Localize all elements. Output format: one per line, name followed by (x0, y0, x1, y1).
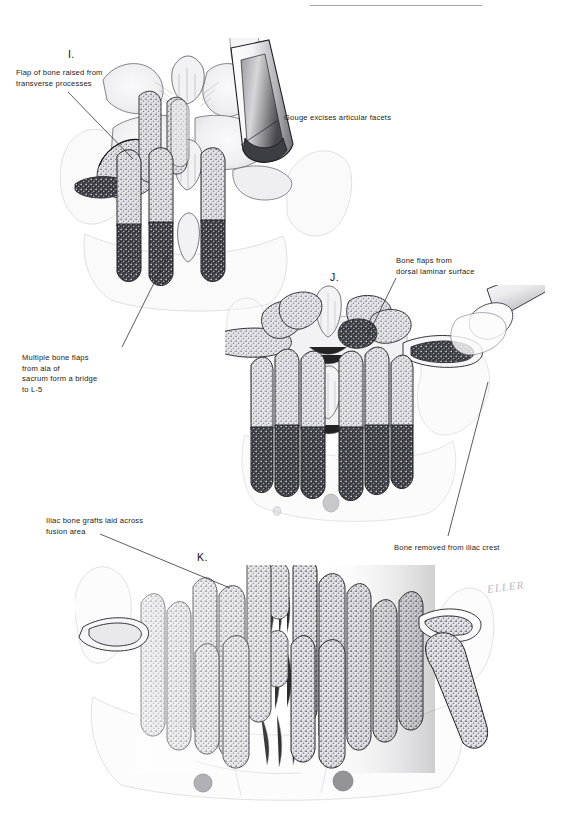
annotation-bone-flaps-dorsal: Bone flaps from dorsal laminar surface (396, 256, 475, 277)
annotation-bone-removed-iliac: Bone removed from iliac crest (394, 543, 500, 554)
annotation-flap-of-bone: Flap of bone raised from transverse proc… (16, 68, 103, 89)
annotation-iliac-bone-grafts: Iliac bone grafts laid across fusion are… (46, 516, 143, 537)
annotation-gouge-excises: Gouge excises articular facets (284, 113, 391, 124)
panel-k-artwork (75, 565, 495, 805)
panel-letter-j: J. (330, 271, 339, 283)
annotation-multiple-bone-flaps: Multiple bone flaps from ala of sacrum f… (22, 353, 97, 395)
panel-letter-k: K. (197, 551, 208, 563)
panel-letter-i: I. (68, 48, 75, 60)
header-rule (310, 5, 482, 6)
panel-j-artwork (225, 285, 545, 535)
illustration-page: Flap of bone raised from transverse proc… (0, 0, 582, 814)
